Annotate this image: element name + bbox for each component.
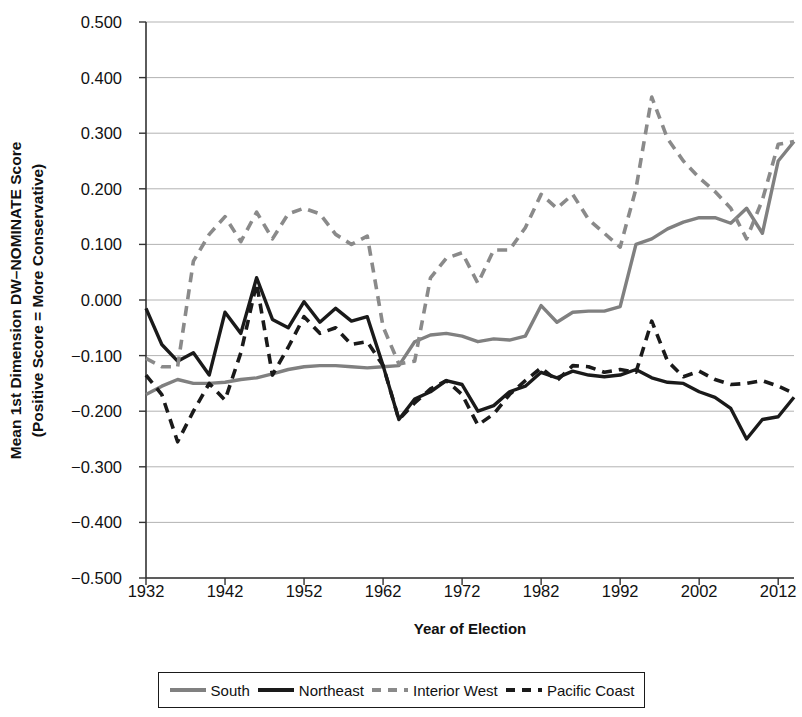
legend-item-south[interactable]: South — [169, 683, 250, 698]
legend-label: Interior West — [413, 683, 498, 698]
legend-item-pacific-coast[interactable]: Pacific Coast — [505, 683, 635, 698]
series-line-pacific-coast — [146, 283, 794, 441]
legend-item-northeast[interactable]: Northeast — [257, 683, 364, 698]
chart-figure: Mean 1st Dimension DW–NOMINATE Score (Po… — [0, 0, 802, 717]
legend-item-interior-west[interactable]: Interior West — [371, 683, 498, 698]
gridlines — [146, 22, 794, 578]
chart-legend: SouthNortheastInterior WestPacific Coast — [158, 672, 645, 708]
solid-black-line-icon — [257, 683, 295, 697]
legend-label: Pacific Coast — [547, 683, 635, 698]
data-series-group — [146, 97, 794, 442]
plot-area — [0, 0, 802, 600]
axis-ticks — [139, 22, 778, 585]
x-axis-title: Year of Election — [146, 620, 794, 637]
legend-label: Northeast — [299, 683, 364, 698]
dashed-black-line-icon — [505, 683, 543, 697]
dashed-gray-line-icon — [371, 683, 409, 697]
legend-label: South — [211, 683, 250, 698]
series-line-south — [146, 142, 794, 395]
solid-gray-line-icon — [169, 683, 207, 697]
series-line-northeast — [146, 278, 794, 439]
